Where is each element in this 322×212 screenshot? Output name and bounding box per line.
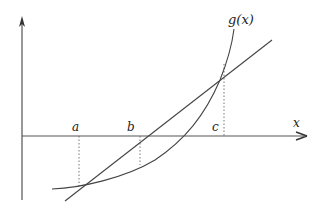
diagram-canvas: g(x) x a b c: [0, 0, 322, 212]
point-label-b: b: [127, 120, 135, 134]
curve-label: g(x): [228, 12, 254, 27]
point-label-c: c: [212, 120, 219, 134]
x-axis-label: x: [293, 116, 300, 130]
point-label-a: a: [72, 120, 79, 134]
secant-line: [65, 40, 272, 201]
